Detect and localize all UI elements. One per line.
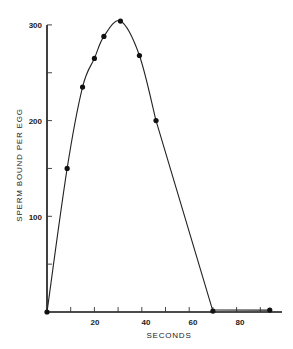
- x-tick-label-80: 80: [236, 318, 245, 327]
- x-axis: 20 40 60 80 SECONDS: [46, 307, 282, 340]
- chart: 100 200 300 SPERM BOUND PER EGG 20 40 60…: [0, 0, 293, 349]
- y-axis: 100 200 300 SPERM BOUND PER EGG: [15, 21, 52, 313]
- data-point: [80, 85, 85, 90]
- y-tick-label-300: 300: [29, 21, 43, 30]
- data-point: [267, 307, 272, 312]
- y-tick-label-200: 200: [29, 117, 43, 126]
- y-axis-title: SPERM BOUND PER EGG: [15, 108, 24, 221]
- x-tick-label-20: 20: [91, 318, 100, 327]
- data-point: [118, 18, 123, 23]
- data-point: [44, 309, 49, 314]
- x-tick-label-40: 40: [142, 318, 151, 327]
- x-axis-title: SECONDS: [146, 331, 191, 340]
- data-curve: [47, 21, 213, 312]
- data-point: [101, 34, 106, 39]
- y-tick-label-100: 100: [29, 213, 43, 222]
- x-tick-label-60: 60: [189, 318, 198, 327]
- data-point: [137, 53, 142, 58]
- data-point: [92, 56, 97, 61]
- data-point: [153, 118, 158, 123]
- data-point: [65, 166, 70, 171]
- plot-area: [44, 18, 272, 314]
- data-points: [44, 18, 272, 314]
- data-point: [210, 308, 215, 313]
